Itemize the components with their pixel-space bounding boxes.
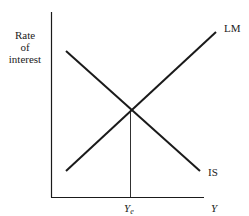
y-axis-label-line1: Rate [15, 29, 35, 41]
x-axis-label: Y [211, 202, 219, 214]
y-axis-label-line3: interest [9, 53, 41, 65]
is-lm-diagram: Rate of interest LM IS Ye Y [0, 0, 249, 216]
lm-curve [66, 32, 216, 171]
is-label: IS [208, 166, 218, 178]
equilibrium-income-label: Ye [124, 202, 134, 216]
y-axis-label-line2: of [20, 41, 30, 53]
lm-label: LM [224, 22, 241, 34]
